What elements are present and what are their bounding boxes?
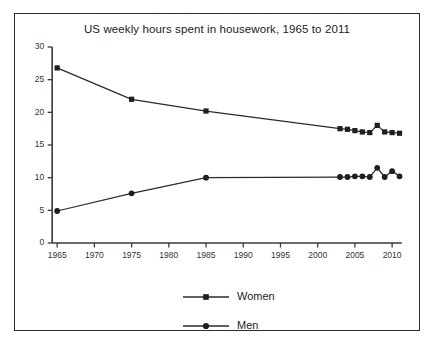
chart-plot-area: 051015202530 196519701975198019851990199…: [15, 14, 421, 332]
data-point-women-2006: [360, 129, 365, 134]
y-tick-label: 10: [35, 172, 45, 182]
data-point-men-2003: [337, 174, 343, 180]
data-point-women-2011: [397, 131, 402, 136]
data-point-men-2008: [374, 165, 380, 171]
data-point-women-2004: [345, 127, 350, 132]
legend-label: Women: [237, 290, 275, 302]
legend-item-men[interactable]: Men: [183, 319, 258, 331]
data-point-women-2003: [337, 126, 342, 131]
y-tick-label: 30: [35, 41, 45, 51]
data-point-women-2008: [375, 123, 380, 128]
data-point-women-2010: [390, 130, 395, 135]
x-tick-label: 1995: [271, 250, 290, 260]
data-point-women-1985: [203, 108, 208, 113]
data-point-men-2009: [382, 174, 388, 180]
data-point-men-1965: [54, 208, 60, 214]
y-tick-label: 25: [35, 74, 45, 84]
data-point-women-1965: [55, 65, 60, 70]
series-men: [54, 165, 402, 214]
data-point-men-2007: [367, 174, 373, 180]
chart-frame: US weekly hours spent in housework, 1965…: [14, 13, 420, 331]
x-tick-label: 1970: [85, 250, 104, 260]
x-tick-label: 1980: [159, 250, 178, 260]
data-point-men-1975: [129, 190, 135, 196]
data-point-men-2004: [345, 174, 351, 180]
legend-marker-square: [203, 294, 209, 300]
series-line-women: [57, 68, 399, 133]
legend-item-women[interactable]: Women: [183, 290, 275, 302]
data-series-layer: [54, 65, 402, 214]
x-tick-label: 2010: [383, 250, 402, 260]
series-women: [55, 65, 403, 136]
data-point-men-2011: [397, 173, 403, 179]
data-point-women-2007: [367, 130, 372, 135]
x-axis-ticks: 1965197019751980198519901995200020052010: [48, 243, 402, 260]
legend-marker-circle: [203, 323, 209, 329]
x-tick-label: 2000: [308, 250, 327, 260]
data-point-men-2006: [359, 173, 365, 179]
y-axis-ticks: 051015202530: [35, 41, 52, 247]
x-tick-label: 1975: [122, 250, 141, 260]
data-point-women-1975: [129, 97, 134, 102]
y-tick-label: 15: [35, 139, 45, 149]
x-tick-label: 1985: [197, 250, 216, 260]
y-tick-label: 0: [39, 237, 44, 247]
x-tick-label: 2005: [345, 250, 364, 260]
x-tick-label: 1990: [234, 250, 253, 260]
y-tick-label: 20: [35, 107, 45, 117]
y-tick-label: 5: [39, 205, 44, 215]
data-point-women-2005: [352, 128, 357, 133]
legend-label: Men: [237, 319, 258, 331]
data-point-women-2009: [382, 129, 387, 134]
data-point-men-2005: [352, 173, 358, 179]
chart-legend: WomenMen: [183, 290, 275, 331]
data-point-men-1985: [203, 175, 209, 181]
x-tick-label: 1965: [48, 250, 67, 260]
data-point-men-2010: [389, 168, 395, 174]
